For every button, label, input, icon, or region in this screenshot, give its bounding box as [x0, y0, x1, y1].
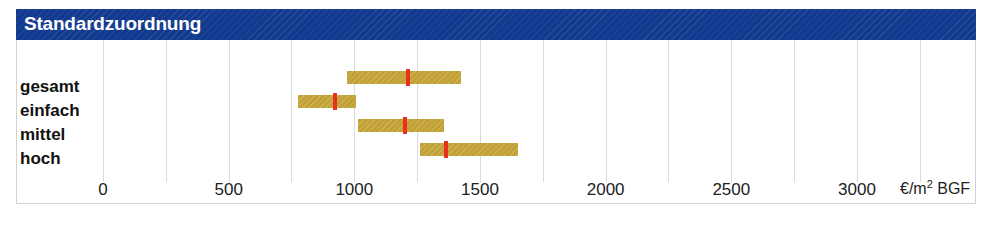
x-axis-line [16, 203, 976, 204]
chart-figure: Standardzuordnung gesamteinfachmittelhoc… [0, 0, 983, 226]
x-tick-label: 3000 [838, 180, 876, 200]
panel-title-bar: Standardzuordnung [16, 9, 976, 40]
x-tick-label: 0 [98, 180, 107, 200]
median-marker [444, 141, 448, 158]
x-tick-label: 2000 [587, 180, 625, 200]
x-tick-label: 2500 [712, 180, 750, 200]
range-bar [298, 95, 356, 108]
row-label-gesamt: gesamt [20, 78, 80, 95]
gridline [354, 40, 355, 182]
x-tick-label: 1500 [461, 180, 499, 200]
gridline [794, 40, 795, 182]
gridline [480, 40, 481, 182]
range-bar [358, 119, 443, 132]
gridline [229, 40, 230, 182]
gridline [543, 40, 544, 182]
plot-area [16, 40, 976, 182]
median-marker [403, 117, 407, 134]
row-label-mittel: mittel [20, 126, 65, 143]
panel-title: Standardzuordnung [24, 13, 201, 35]
gridline [417, 40, 418, 182]
gridline [103, 40, 104, 182]
row-label-einfach: einfach [20, 102, 80, 119]
gridline [166, 40, 167, 182]
range-bar [420, 143, 518, 156]
x-axis-unit-label: €/m2 BGF [900, 180, 970, 198]
range-bar [347, 71, 461, 84]
gridline [668, 40, 669, 182]
gridline [920, 40, 921, 182]
gridline [731, 40, 732, 182]
gridline [291, 40, 292, 182]
row-label-hoch: hoch [20, 150, 61, 167]
x-tick-label: 500 [214, 180, 242, 200]
x-tick-label: 1000 [335, 180, 373, 200]
median-marker [333, 93, 337, 110]
gridline [606, 40, 607, 182]
gridline [857, 40, 858, 182]
median-marker [406, 69, 410, 86]
